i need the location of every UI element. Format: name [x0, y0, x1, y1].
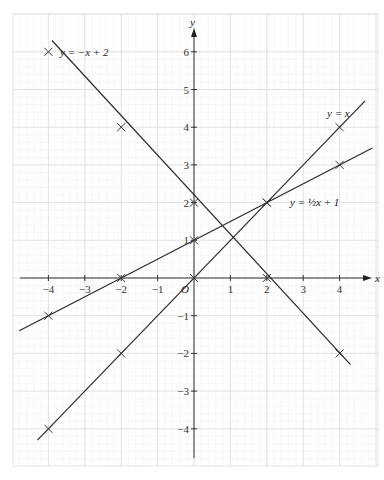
- y-axis-arrow-icon: [191, 28, 197, 37]
- x-tick-label: 1: [228, 283, 234, 295]
- x-tick-label: 4: [337, 283, 343, 295]
- x-tick-label: −1: [152, 283, 164, 295]
- label-y-eq-neg-x-plus-2: y = −x + 2: [59, 46, 109, 58]
- x-tick-label: −2: [115, 283, 127, 295]
- label-y-eq-half-x-plus-1: y = ½x + 1: [289, 196, 339, 208]
- y-tick-label: −3: [177, 385, 189, 397]
- y-tick-label: −2: [177, 347, 189, 359]
- coordinate-plane-chart: xyO −4−3−2−11234−4−3−2−1123456 y = −x + …: [0, 0, 384, 480]
- x-tick-label: 2: [264, 283, 270, 295]
- y-tick-label: −4: [177, 423, 189, 435]
- x-tick-label: −3: [79, 283, 91, 295]
- x-tick-label: 3: [300, 283, 306, 295]
- y-tick-label: 4: [184, 121, 190, 133]
- y-tick-label: 2: [184, 197, 190, 209]
- x-axis-label: x: [374, 272, 380, 284]
- y-tick-label: 3: [184, 159, 190, 171]
- y-tick-label: 5: [184, 84, 190, 96]
- y-tick-label: 6: [184, 46, 190, 58]
- y-tick-label: −1: [177, 310, 189, 322]
- x-tick-label: −4: [43, 283, 55, 295]
- label-y-eq-x: y = x: [326, 107, 350, 119]
- y-axis-label: y: [189, 16, 195, 28]
- function-line: [19, 148, 372, 331]
- x-axis-arrow-icon: [363, 275, 372, 281]
